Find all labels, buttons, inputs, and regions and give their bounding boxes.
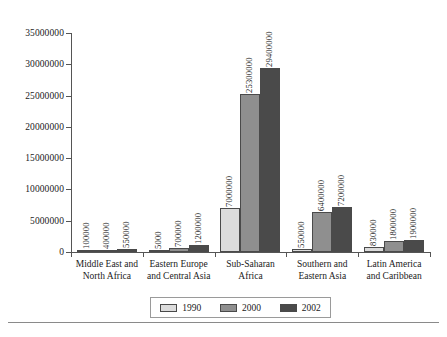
bar-2000-1[interactable]: 400000: [97, 250, 117, 253]
bar-slot: 29400000: [260, 33, 280, 252]
bar-2002-2[interactable]: 1200000: [189, 245, 209, 253]
bar-group: 83000018000001900000: [358, 33, 430, 252]
bar-value-label: 1200000: [192, 212, 202, 243]
category-label-line: North Africa: [71, 271, 143, 283]
category-label: Eastern Europeand Central Asia: [143, 259, 215, 282]
bar-2000-5[interactable]: 1800000: [384, 241, 404, 252]
category-label: Middle East andNorth Africa: [71, 259, 143, 282]
bar-2000-4[interactable]: 6400000: [312, 212, 332, 252]
bar-slot: 5000: [149, 33, 169, 252]
y-tick-label: 5000000: [30, 216, 64, 226]
bar-group: 55000064000007200000: [286, 33, 358, 252]
bar-group: 50007000001200000: [143, 33, 215, 252]
bar-1990-2[interactable]: 5000: [149, 250, 169, 252]
bar-group-bars: 70000002530000029400000: [215, 33, 287, 252]
bar-1990-4[interactable]: 550000: [292, 249, 312, 252]
category-label: Sub-SaharanAfrica: [215, 259, 287, 282]
category-label-line: Middle East and: [71, 259, 143, 271]
bar-value-label: 7000000: [224, 176, 234, 207]
bar-slot: 1200000: [189, 33, 209, 252]
y-tick-label: 25000000: [25, 91, 64, 101]
y-tick-label: 35000000: [25, 28, 64, 38]
bar-value-label: 550000: [296, 221, 306, 248]
bar-1990-3[interactable]: 7000000: [220, 208, 240, 252]
bar-slot: 6400000: [312, 33, 332, 252]
bar-slot: 550000: [117, 33, 137, 252]
bar-slot: 830000: [364, 33, 384, 252]
bar-value-label: 25300000: [244, 57, 254, 93]
category-label-line: Eastern Europe: [143, 259, 215, 271]
x-axis-separator: [430, 252, 431, 257]
bar-group-bars: 100000400000550000: [71, 33, 143, 252]
x-axis-separator: [143, 252, 144, 257]
category-label-line: and Central Asia: [143, 271, 215, 283]
bar-value-label: 7200000: [336, 175, 346, 206]
x-axis-separator: [358, 252, 359, 257]
category-label-line: Africa: [215, 271, 287, 283]
x-axis-line: [71, 252, 430, 253]
legend-label: 2000: [242, 303, 261, 313]
bar-2002-4[interactable]: 7200000: [332, 207, 352, 252]
bar-slot: 100000: [77, 33, 97, 252]
legend-swatch-2002: [280, 304, 297, 312]
bar-2002-1[interactable]: 550000: [117, 249, 137, 252]
bar-slot: 550000: [292, 33, 312, 252]
legend-item-2000[interactable]: 2000: [220, 303, 261, 313]
bar-2000-2[interactable]: 700000: [169, 248, 189, 252]
legend-label: 2002: [302, 303, 321, 313]
category-label: Southern andEastern Asia: [286, 259, 358, 282]
y-tick-label: 20000000: [25, 122, 64, 132]
legend-swatch-2000: [220, 304, 237, 312]
bar-2002-5[interactable]: 1900000: [404, 240, 424, 252]
bar-slot: 400000: [97, 33, 117, 252]
bar-slot: 700000: [169, 33, 189, 252]
bar-slot: 7000000: [220, 33, 240, 252]
category-label-line: and Caribbean: [358, 271, 430, 283]
bar-value-label: 830000: [368, 219, 378, 246]
bar-slot: 1900000: [404, 33, 424, 252]
category-label-line: Eastern Asia: [286, 271, 358, 283]
category-label-line: Latin America: [358, 259, 430, 271]
bar-group-bars: 50007000001200000: [143, 33, 215, 252]
bar-1990-5[interactable]: 830000: [364, 247, 384, 252]
chart-legend: 199020002002: [150, 297, 331, 318]
footer-divider: [8, 322, 439, 323]
category-label: Latin Americaand Caribbean: [358, 259, 430, 282]
bar-group: 100000400000550000: [71, 33, 143, 252]
bar-group-bars: 83000018000001900000: [358, 33, 430, 252]
bar-2000-3[interactable]: 25300000: [240, 94, 260, 252]
legend-label: 1990: [182, 303, 201, 313]
y-tick-label: 30000000: [25, 59, 64, 69]
legend-swatch-1990: [160, 304, 177, 312]
bar-group-bars: 55000064000007200000: [286, 33, 358, 252]
bar-value-label: 1900000: [408, 208, 418, 239]
bar-value-label: 5000: [152, 231, 162, 249]
bar-value-label: 700000: [172, 220, 182, 247]
bar-slot: 25300000: [240, 33, 260, 252]
bar-chart: 0500000010000000150000002000000025000000…: [0, 0, 447, 337]
legend-item-2002[interactable]: 2002: [280, 303, 321, 313]
bar-value-label: 100000: [80, 222, 90, 249]
bar-slot: 7200000: [332, 33, 352, 252]
category-label-line: Sub-Saharan: [215, 259, 287, 271]
bar-value-label: 1800000: [388, 209, 398, 240]
bar-value-label: 6400000: [316, 180, 326, 211]
y-tick-label: 10000000: [25, 184, 64, 194]
x-axis-separator: [286, 252, 287, 257]
bar-value-label: 550000: [120, 221, 130, 248]
bar-group: 70000002530000029400000: [215, 33, 287, 252]
bar-2002-3[interactable]: 29400000: [260, 68, 280, 252]
y-tick-label: 0: [59, 247, 64, 257]
category-label-line: Southern and: [286, 259, 358, 271]
bar-1990-1[interactable]: 100000: [77, 250, 97, 252]
y-tick-label: 15000000: [25, 153, 64, 163]
x-axis-separator: [71, 252, 72, 257]
bar-slot: 1800000: [384, 33, 404, 252]
legend-item-1990[interactable]: 1990: [160, 303, 201, 313]
x-axis-separator: [215, 252, 216, 257]
plot-area: 1000004000005500005000700000120000070000…: [71, 33, 430, 252]
bar-value-label: 29400000: [264, 31, 274, 67]
bar-value-label: 400000: [100, 222, 110, 249]
